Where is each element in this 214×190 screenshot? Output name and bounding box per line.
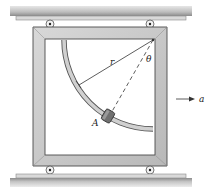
bottom-rail: [10, 174, 192, 187]
angle-label: θ: [146, 54, 152, 64]
roller-icon: [146, 166, 154, 174]
angle-reference-dashed-line: [110, 40, 153, 115]
top-rail: [10, 6, 192, 20]
acceleration-label: a: [199, 94, 204, 104]
roller-icon: [46, 166, 54, 174]
radius-line: [79, 40, 153, 85]
radius-label: r: [110, 57, 115, 67]
acceleration-arrow: [176, 97, 195, 102]
pivot-point: [152, 39, 154, 41]
collar-label: A: [91, 118, 99, 128]
diagram-canvas: r θ A a: [0, 0, 214, 190]
arrowhead-icon: [189, 97, 195, 102]
bottom-wheels: [46, 166, 154, 174]
square-frame: [33, 27, 167, 166]
